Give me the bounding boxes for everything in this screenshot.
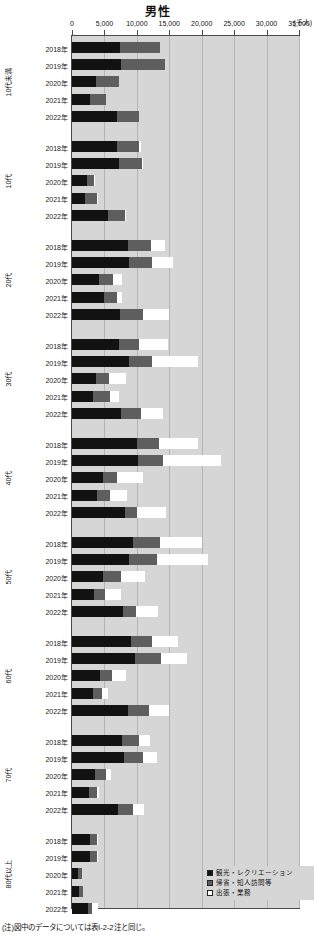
bar-segment-出張・業務 bbox=[149, 705, 170, 716]
bar-segment-観光・レクリエーション bbox=[72, 274, 99, 285]
gridline bbox=[299, 36, 300, 908]
year-label: 2020年 bbox=[28, 870, 68, 880]
footnote: (注)図中のデータについては表Ⅰ-2-2注と同じ。 bbox=[2, 921, 149, 932]
bar-segment-観光・レクリエーション bbox=[72, 193, 85, 204]
legend-label: 観光・レクリエーション bbox=[216, 868, 293, 878]
bar-segment-出張・業務 bbox=[163, 455, 221, 466]
male-travel-purpose-chart: 男性 (千人) 05,00010,00015,00020,00025,00030… bbox=[0, 0, 315, 939]
bar-row bbox=[72, 240, 299, 251]
bar-segment-帰省・知人訪問等 bbox=[89, 787, 97, 798]
year-label: 2021年 bbox=[28, 887, 68, 897]
year-label: 2018年 bbox=[28, 638, 68, 648]
bar-segment-観光・レクリエーション bbox=[72, 309, 120, 320]
x-axis-tick bbox=[72, 30, 73, 36]
bar-segment-帰省・知人訪問等 bbox=[87, 175, 94, 186]
bar-segment-観光・レクリエーション bbox=[72, 141, 117, 152]
bar-row bbox=[72, 834, 299, 845]
bar-segment-帰省・知人訪問等 bbox=[128, 240, 151, 251]
bar-segment-観光・レクリエーション bbox=[72, 472, 103, 483]
x-axis-tick bbox=[299, 30, 300, 36]
legend-swatch-icon bbox=[207, 890, 213, 896]
bar-segment-出張・業務 bbox=[109, 373, 126, 384]
bar-segment-観光・レクリエーション bbox=[72, 240, 128, 251]
year-label: 2019年 bbox=[28, 259, 68, 269]
bar-segment-帰省・知人訪問等 bbox=[108, 210, 124, 221]
bar-segment-出張・業務 bbox=[102, 688, 108, 699]
bar-segment-観光・レクリエーション bbox=[72, 571, 103, 582]
bar-row bbox=[72, 851, 299, 862]
year-label: 2019年 bbox=[28, 61, 68, 71]
legend-item-business-trip: 出張・業務 bbox=[207, 888, 312, 898]
bar-segment-出張・業務 bbox=[157, 554, 208, 565]
bar-segment-帰省・知人訪問等 bbox=[78, 868, 81, 879]
bar-row bbox=[72, 141, 299, 152]
bar-segment-観光・レクリエーション bbox=[72, 752, 124, 763]
bar-segment-観光・レクリエーション bbox=[72, 688, 93, 699]
bar-row bbox=[72, 653, 299, 664]
year-label: 2018年 bbox=[28, 836, 68, 846]
year-label: 2021年 bbox=[28, 194, 68, 204]
year-label: 2018年 bbox=[28, 737, 68, 747]
bar-segment-出張・業務 bbox=[160, 537, 203, 548]
bar-segment-観光・レクリエーション bbox=[72, 886, 79, 897]
year-label: 2019年 bbox=[28, 853, 68, 863]
legend-item-sightseeing-recreation: 観光・レクリエーション bbox=[207, 868, 312, 878]
bar-segment-出張・業務 bbox=[151, 240, 165, 251]
bar-row bbox=[72, 490, 299, 501]
year-label: 2022年 bbox=[28, 211, 68, 221]
bar-row bbox=[72, 408, 299, 419]
year-label: 2018年 bbox=[28, 143, 68, 153]
bar-segment-観光・レクリエーション bbox=[72, 735, 122, 746]
bar-row bbox=[72, 589, 299, 600]
bar-segment-観光・レクリエーション bbox=[72, 507, 125, 518]
bar-segment-帰省・知人訪問等 bbox=[79, 886, 83, 897]
bar-row bbox=[72, 292, 299, 303]
year-label: 2022年 bbox=[28, 607, 68, 617]
age-group-label-70代: 70代 bbox=[3, 752, 13, 798]
bar-segment-観光・レクリエーション bbox=[72, 94, 90, 105]
bar-segment-出張・業務 bbox=[141, 408, 162, 419]
bar-segment-帰省・知人訪問等 bbox=[121, 408, 142, 419]
legend-swatch-icon bbox=[207, 870, 213, 876]
legend-swatch-icon bbox=[207, 880, 213, 886]
bar-segment-出張・業務 bbox=[139, 735, 150, 746]
year-label: 2021年 bbox=[28, 788, 68, 798]
year-label: 2021年 bbox=[28, 95, 68, 105]
bar-row bbox=[72, 76, 299, 87]
year-label: 2020年 bbox=[28, 672, 68, 682]
bar-segment-帰省・知人訪問等 bbox=[119, 158, 142, 169]
year-label: 2020年 bbox=[28, 78, 68, 88]
bar-row bbox=[72, 42, 299, 53]
bar-segment-出張・業務 bbox=[142, 158, 143, 169]
bar-segment-帰省・知人訪問等 bbox=[131, 636, 152, 647]
bar-row bbox=[72, 804, 299, 815]
bar-segment-出張・業務 bbox=[94, 175, 95, 186]
bar-segment-観光・レクリエーション bbox=[72, 606, 123, 617]
bar-segment-観光・レクリエーション bbox=[72, 391, 93, 402]
year-label: 2020年 bbox=[28, 474, 68, 484]
bar-segment-帰省・知人訪問等 bbox=[125, 507, 137, 518]
bar-segment-出張・業務 bbox=[143, 752, 157, 763]
year-label: 2021年 bbox=[28, 689, 68, 699]
bar-segment-帰省・知人訪問等 bbox=[95, 769, 106, 780]
year-label: 2018年 bbox=[28, 539, 68, 549]
year-label: 2019年 bbox=[28, 655, 68, 665]
bar-segment-帰省・知人訪問等 bbox=[129, 257, 152, 268]
age-group-label-30代: 30代 bbox=[3, 356, 13, 402]
year-label: 2020年 bbox=[28, 177, 68, 187]
bar-row bbox=[72, 59, 299, 70]
bar-segment-観光・レクリエーション bbox=[72, 490, 97, 501]
bar-row bbox=[72, 158, 299, 169]
x-axis-tick bbox=[104, 30, 105, 36]
bar-segment-帰省・知人訪問等 bbox=[104, 292, 116, 303]
bar-segment-観光・レクリエーション bbox=[72, 455, 138, 466]
bar-segment-出張・業務 bbox=[125, 210, 126, 221]
bar-row bbox=[72, 274, 299, 285]
bar-row bbox=[72, 769, 299, 780]
bar-segment-帰省・知人訪問等 bbox=[85, 193, 97, 204]
bar-segment-出張・業務 bbox=[152, 257, 173, 268]
bar-segment-出張・業務 bbox=[159, 438, 199, 449]
x-axis-tick bbox=[169, 30, 170, 36]
bar-segment-観光・レクリエーション bbox=[72, 373, 96, 384]
age-group-label-10代: 10代 bbox=[3, 158, 13, 204]
